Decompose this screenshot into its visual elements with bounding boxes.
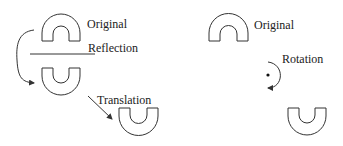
original-shape-left (42, 14, 80, 41)
rotation-center (266, 73, 269, 76)
translated-shape (119, 108, 158, 135)
label-original-right: Original (254, 18, 295, 32)
original-shape-right (209, 14, 248, 42)
reflection-arrow (17, 30, 34, 83)
rotated-shape (288, 108, 326, 135)
label-rotation: Rotation (282, 52, 323, 66)
rotation-arrow (268, 62, 280, 88)
label-translation: Translation (97, 93, 151, 107)
label-reflection: Reflection (88, 41, 138, 55)
label-original-left: Original (87, 17, 128, 31)
reflected-shape (42, 68, 80, 95)
transformations-diagram: Original Reflection Translation Original… (0, 0, 343, 146)
